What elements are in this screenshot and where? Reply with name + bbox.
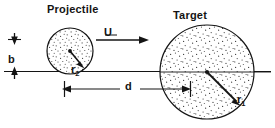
target-radius-subscript: 1 <box>241 99 245 108</box>
projectile-radius-label: r2 <box>71 64 79 75</box>
separation-label: d <box>125 81 132 92</box>
impact-parameter-label: b <box>8 54 15 65</box>
diagram-canvas <box>0 0 275 128</box>
target-circle <box>160 25 271 119</box>
target-title-label: Target <box>173 10 207 21</box>
velocity-label: U <box>104 27 112 38</box>
target-radius-label: r1 <box>237 94 245 105</box>
collision-diagram-figure: Projectile Target U b d r1 r2 <box>0 0 275 128</box>
projectile-radius-subscript: 2 <box>75 69 79 78</box>
projectile-title-label: Projectile <box>47 4 99 15</box>
